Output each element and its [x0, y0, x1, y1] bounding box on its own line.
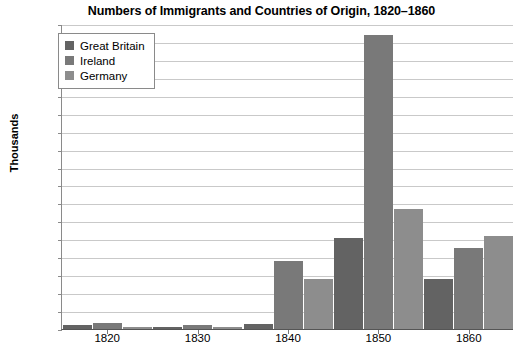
immigration-bar-chart: Numbers of Immigrants and Countries of O… — [0, 0, 523, 360]
bar-germany-1850[interactable] — [394, 209, 423, 329]
legend-swatch-icon — [65, 71, 74, 80]
bar-great-britain-1860[interactable] — [424, 279, 453, 329]
bar-ireland-1840[interactable] — [274, 261, 303, 329]
y-axis-title: Thousands — [8, 98, 20, 188]
bar-great-britain-1840[interactable] — [244, 324, 273, 329]
bar-great-britain-1820[interactable] — [63, 325, 92, 329]
bar-great-britain-1830[interactable] — [153, 327, 182, 329]
bar-germany-1830[interactable] — [213, 327, 242, 329]
bar-ireland-1850[interactable] — [364, 35, 393, 329]
x-tick-label: 1860 — [409, 332, 523, 344]
bar-great-britain-1850[interactable] — [334, 238, 363, 330]
bar-ireland-1820[interactable] — [93, 323, 122, 329]
legend-label: Germany — [80, 70, 127, 82]
legend-item[interactable]: Germany — [65, 68, 145, 83]
bar-germany-1820[interactable] — [123, 327, 152, 329]
legend-swatch-icon — [65, 41, 74, 50]
legend-swatch-icon — [65, 56, 74, 65]
bar-ireland-1860[interactable] — [454, 248, 483, 329]
legend-label: Ireland — [80, 55, 115, 67]
legend-label: Great Britain — [80, 40, 145, 52]
chart-title: Numbers of Immigrants and Countries of O… — [0, 4, 523, 18]
legend-item[interactable]: Great Britain — [65, 38, 145, 53]
bar-germany-1840[interactable] — [304, 279, 333, 329]
legend-item[interactable]: Ireland — [65, 53, 145, 68]
bar-ireland-1830[interactable] — [183, 325, 212, 329]
y-tick-mark — [58, 330, 62, 331]
bar-germany-1860[interactable] — [484, 236, 513, 329]
chart-legend: Great Britain Ireland Germany — [58, 33, 155, 89]
